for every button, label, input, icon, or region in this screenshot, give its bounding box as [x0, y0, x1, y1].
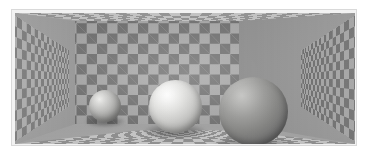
image-frame [11, 9, 357, 146]
sphere-large-rim-shading [219, 77, 288, 145]
sphere-small-rim-shading [89, 90, 121, 122]
scene-root [0, 0, 368, 154]
sphere-medium [149, 80, 202, 133]
sphere-small [89, 90, 121, 122]
sphere-large [219, 77, 288, 145]
sphere-medium-rim-shading [149, 80, 202, 133]
room-viewport [15, 13, 355, 144]
